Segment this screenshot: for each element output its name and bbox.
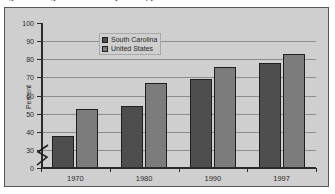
y-tick-label: 60 [26, 92, 34, 99]
y-tick-mark [37, 132, 42, 133]
y-tick-label: 70 [26, 74, 34, 81]
plot-panel: 030405060708090100 1970198019901997 Sout… [41, 23, 316, 168]
figure-frame: Percent 030405060708090100 1970198019901… [4, 7, 329, 187]
bar [145, 83, 167, 168]
x-tick-mark [110, 168, 111, 172]
plot-area [41, 23, 316, 168]
bar [190, 79, 212, 168]
chart-legend: South CarolinaUnited States [99, 33, 161, 55]
y-tick-mark [37, 59, 42, 60]
x-tick-mark [247, 168, 248, 172]
bar [52, 136, 74, 169]
y-tick-label: 40 [26, 128, 34, 135]
y-tick-label: 90 [26, 38, 34, 45]
y-tick-label: 80 [26, 56, 34, 63]
y-tick-label: 50 [26, 110, 34, 117]
bar [214, 67, 236, 168]
legend-label: United States [111, 44, 153, 53]
x-tick-label: 1990 [205, 174, 222, 183]
legend-item: United States [102, 44, 157, 53]
legend-label: South Carolina [111, 35, 157, 44]
y-tick-label: 0 [30, 165, 34, 172]
x-tick-label: 1980 [136, 174, 153, 183]
y-tick-label: 30 [26, 147, 34, 154]
x-tick-mark [179, 168, 180, 172]
gridline [41, 41, 316, 42]
bar [259, 63, 281, 168]
legend-swatch-icon [102, 46, 108, 52]
y-tick-mark [37, 41, 42, 42]
bar [121, 106, 143, 168]
chart-screenshot: Figure 5. High school completion, percen… [0, 0, 335, 194]
gridline [41, 59, 316, 60]
x-tick-mark [316, 168, 317, 172]
bar [76, 109, 98, 168]
x-tick-label: 1997 [273, 174, 290, 183]
y-tick-mark [37, 77, 42, 78]
legend-swatch-icon [102, 37, 108, 43]
legend-item: South Carolina [102, 35, 157, 44]
caption-remnant: Figure 5. High school completion, percen… [0, 0, 335, 1]
axis-break-icon [36, 144, 49, 166]
y-tick-mark [37, 23, 42, 24]
y-tick-label: 100 [22, 20, 34, 27]
x-tick-label: 1970 [67, 174, 84, 183]
y-tick-mark [37, 114, 42, 115]
x-tick-mark [41, 168, 42, 172]
y-tick-mark [37, 96, 42, 97]
bar [283, 54, 305, 168]
